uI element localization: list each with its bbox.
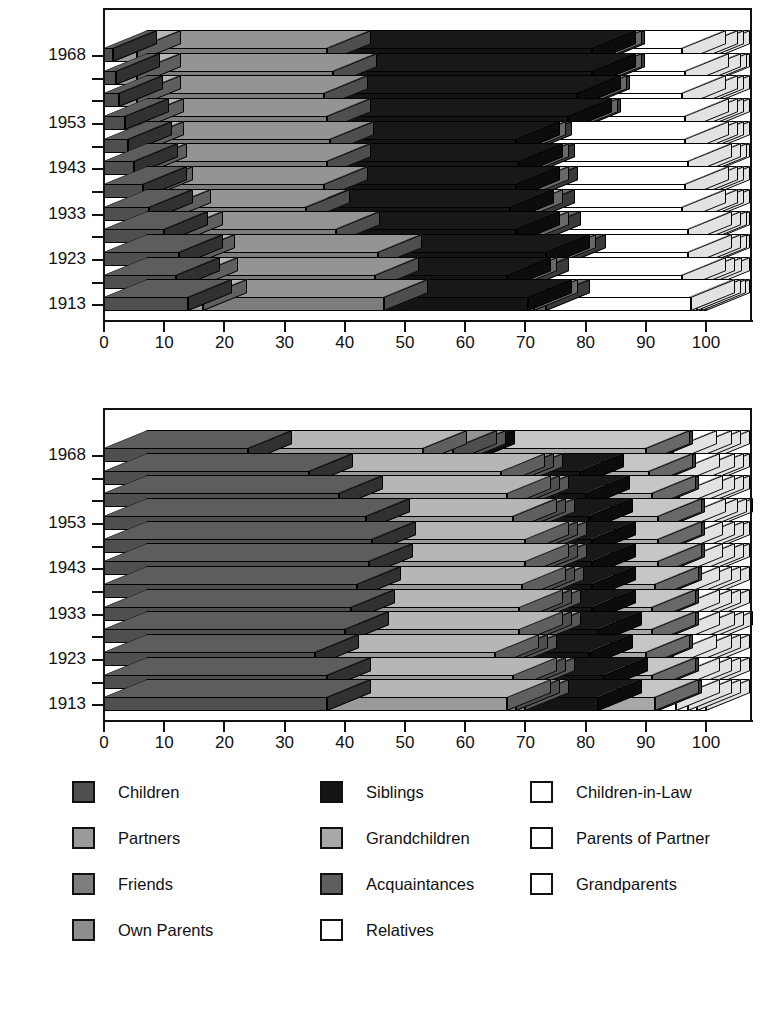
plot-box-right-edge [750, 408, 752, 722]
legend-label: Siblings [366, 782, 424, 802]
x-axis-tick [464, 322, 466, 332]
x-axis-tick [645, 722, 647, 732]
legend-label: Children-in-Law [576, 782, 692, 802]
x-axis-label: 20 [194, 334, 254, 351]
legend-swatch [72, 781, 95, 803]
y-axis-tick [92, 659, 104, 661]
bar-segment-top [104, 521, 416, 539]
y-axis-tick [92, 704, 104, 706]
legend-swatch [530, 873, 553, 895]
y-axis-tick [92, 168, 104, 170]
plot-box-top-edge [104, 408, 750, 410]
y-axis-tick [92, 478, 104, 480]
x-axis-line [103, 320, 753, 322]
bar-segment-top [104, 657, 371, 675]
x-axis-label: 40 [315, 334, 375, 351]
plot-box-top-edge [104, 8, 750, 10]
legend-label: Partners [118, 828, 180, 848]
x-axis-label: 60 [435, 734, 495, 751]
x-axis-label: 30 [255, 734, 315, 751]
y-axis-tick [92, 614, 104, 616]
y-axis-tick [92, 191, 104, 193]
bar-segment-top [104, 589, 395, 607]
x-axis-label: 0 [74, 734, 134, 751]
legend-swatch [320, 919, 343, 941]
bar-segment-top [104, 679, 371, 697]
legend-swatch [320, 827, 343, 849]
legend-label: Own Parents [118, 920, 213, 940]
y-axis-tick [92, 282, 104, 284]
y-axis-tick [92, 304, 104, 306]
legend-label: Acquaintances [366, 874, 474, 894]
bar-segment-top [104, 498, 410, 516]
x-axis-tick [344, 322, 346, 332]
y-axis-label: 1953 [16, 114, 86, 131]
chart-top: 1913192319331943195319680102030405060708… [0, 0, 773, 375]
legend-swatch [530, 781, 553, 803]
bar-segment [104, 116, 125, 130]
x-axis-label: 10 [134, 734, 194, 751]
legend-swatch [530, 827, 553, 849]
bar-segment-top [104, 475, 383, 493]
x-axis-tick [404, 722, 406, 732]
x-axis-tick [464, 722, 466, 732]
x-axis-tick [524, 322, 526, 332]
legend-swatch [72, 919, 95, 941]
x-axis-tick [705, 322, 707, 332]
y-axis-tick [92, 500, 104, 502]
y-axis-tick [92, 591, 104, 593]
x-axis-label: 70 [495, 334, 555, 351]
x-axis-label: 50 [375, 334, 435, 351]
x-axis-line [103, 720, 753, 722]
y-axis-label: 1943 [16, 559, 86, 576]
bar-segment [104, 697, 327, 711]
y-axis-label: 1953 [16, 514, 86, 531]
y-axis-label: 1923 [16, 250, 86, 267]
x-axis-label: 100 [676, 734, 736, 751]
legend-label: Grandparents [576, 874, 677, 894]
y-axis-label: 1913 [16, 295, 86, 312]
bar-segment-top [324, 75, 621, 93]
legend-label: Children [118, 782, 179, 802]
x-axis-label: 70 [495, 734, 555, 751]
legend-label: Grandchildren [366, 828, 470, 848]
x-axis-tick [344, 722, 346, 732]
legend-swatch [72, 873, 95, 895]
x-axis-label: 90 [616, 734, 676, 751]
x-axis-tick [163, 722, 165, 732]
x-axis-label: 0 [74, 334, 134, 351]
y-axis-tick [92, 236, 104, 238]
y-axis-label: 1968 [16, 446, 86, 463]
legend-label: Parents of Partner [576, 828, 710, 848]
x-axis-label: 50 [375, 734, 435, 751]
y-axis-tick [92, 523, 104, 525]
legend-label: Friends [118, 874, 173, 894]
bar-segment-top [333, 53, 636, 71]
y-axis-label: 1913 [16, 695, 86, 712]
y-axis-label: 1933 [16, 605, 86, 622]
y-axis-label: 1943 [16, 159, 86, 176]
bar-segment [104, 48, 113, 62]
x-axis-tick [585, 322, 587, 332]
legend-swatch [72, 827, 95, 849]
y-axis-label: 1923 [16, 650, 86, 667]
plot-box-right-edge [750, 8, 752, 322]
y-axis-tick [92, 568, 104, 570]
x-axis-tick [404, 322, 406, 332]
x-axis-tick [103, 322, 105, 332]
x-axis-tick [284, 722, 286, 732]
x-axis-tick [103, 722, 105, 732]
x-axis-label: 20 [194, 734, 254, 751]
figure-root: 1913192319331943195319680102030405060708… [0, 0, 773, 1012]
y-axis-tick [92, 146, 104, 148]
y-axis-tick [92, 455, 104, 457]
x-axis-label: 100 [676, 334, 736, 351]
bar-segment [104, 139, 128, 153]
bar-segment [104, 93, 119, 107]
bar-segment-top [104, 543, 413, 561]
x-axis-label: 80 [556, 734, 616, 751]
bar-segment-top [327, 30, 636, 48]
y-axis-tick [92, 214, 104, 216]
x-axis-tick [645, 322, 647, 332]
y-axis-tick [92, 55, 104, 57]
